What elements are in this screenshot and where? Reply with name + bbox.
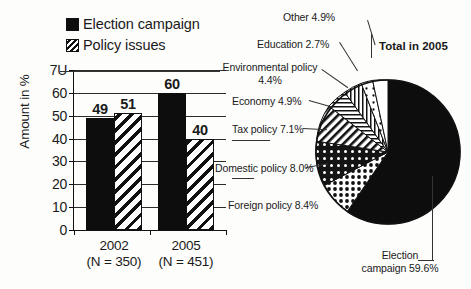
pie-label-environmental-policy-line1: Environmental policy <box>214 61 326 74</box>
legend-label-policy-issues: Policy issues <box>83 38 166 53</box>
ytick-label-30: 30 <box>52 153 67 169</box>
pie-chart-title: Total in 2005 <box>379 40 448 53</box>
pie-label-domestic-policy: Domestic policy 8.0% <box>215 162 313 175</box>
legend-swatch-solid-black-icon <box>66 18 79 31</box>
pie-label-environmental-policy-line2: 4.4% <box>214 74 326 87</box>
xtick-left <box>74 230 75 235</box>
xtick-mid <box>150 230 151 235</box>
legend-label-election-campaign: Election campaign <box>83 17 200 32</box>
legend-item-election-campaign: Election campaign <box>66 14 200 35</box>
legend-swatch-diagonal-hatch-icon <box>66 39 79 52</box>
ytick-10 <box>69 207 74 208</box>
xaxis-group-2002-n: (N = 350) <box>87 254 142 270</box>
leader-line-environmental-policy-extension <box>60 71 220 72</box>
pie-label-environmental-policy: Environmental policy 4.4% <box>214 61 326 86</box>
ytick-label-50: 50 <box>52 108 67 124</box>
figure-canvas: Election campaign Policy issues Amount i… <box>0 0 471 289</box>
xaxis-group-2005-n: (N = 451) <box>159 254 214 270</box>
xtick-right <box>226 230 227 235</box>
ytick-40 <box>69 139 74 140</box>
ytick-label-0: 0 <box>60 222 68 238</box>
pie-label-education: Education 2.7% <box>257 38 329 51</box>
bar-value-2005-policy-issues: 40 <box>192 122 208 138</box>
ytick-label-20: 20 <box>52 176 67 192</box>
bar-value-2002-policy-issues: 51 <box>120 96 136 112</box>
bar-2002-policy-issues: 51 <box>114 113 142 230</box>
pie-label-other: Other 4.9% <box>283 11 335 24</box>
bar-value-2002-election-campaign: 49 <box>92 101 108 117</box>
pie-label-election-campaign-line1: Election <box>352 249 448 262</box>
pie-label-election-campaign-line2: campaign 59.6% <box>352 262 448 275</box>
pie-label-tax-policy: Tax policy 7.1% <box>232 123 303 136</box>
pie-label-foreign-policy: Foreign policy 8.4% <box>228 199 318 212</box>
ytick-label-40: 40 <box>52 131 67 147</box>
bar-value-2005-election-campaign: 60 <box>164 76 180 92</box>
leader-line-total-2005 <box>371 34 372 58</box>
xaxis-group-2005: 2005 (N = 451) <box>159 238 214 270</box>
pie-label-election-campaign: Election campaign 59.6% <box>352 249 448 274</box>
leader-line-education <box>339 42 358 71</box>
ytick-30 <box>69 161 74 162</box>
bar-2005-policy-issues: 40 <box>186 139 214 230</box>
ytick-50 <box>69 116 74 117</box>
leader-line-election-campaign <box>432 176 433 260</box>
bar-chart-y-axis-title: Amount in % <box>17 64 32 160</box>
xaxis-group-2002-year: 2002 <box>87 238 142 254</box>
bar-2005-election-campaign: 60 <box>158 93 186 230</box>
ytick-label-60: 60 <box>52 85 67 101</box>
leader-line-domestic-policy-extension <box>232 140 270 141</box>
ytick-label-70: 7U <box>50 62 67 78</box>
gridline-60 <box>74 93 226 94</box>
legend-item-policy-issues: Policy issues <box>66 35 200 56</box>
xaxis-group-2002: 2002 (N = 350) <box>87 238 142 270</box>
ytick-label-10: 10 <box>52 199 67 215</box>
ytick-60 <box>69 93 74 94</box>
bar-chart-plot-area: 7U 60 50 40 30 20 10 0 49 51 60 <box>73 70 226 231</box>
ytick-20 <box>69 184 74 185</box>
xaxis-group-2005-year: 2005 <box>159 238 214 254</box>
pie-chart <box>314 78 462 226</box>
pie-chart-svg <box>314 78 462 226</box>
bar-2002-election-campaign: 49 <box>86 118 114 230</box>
pie-label-economy: Economy 4.9% <box>232 95 301 108</box>
leader-line-foreign-policy-extension <box>232 178 254 179</box>
bar-chart-legend: Election campaign Policy issues <box>66 14 200 56</box>
